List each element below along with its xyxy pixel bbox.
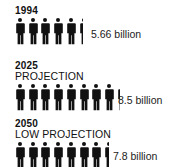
person-icon xyxy=(66,84,76,111)
row-2050: 2050 LOW PROJECTION xyxy=(15,118,111,167)
person-icon xyxy=(53,84,63,111)
person-icon xyxy=(91,142,101,167)
figure-row xyxy=(15,142,111,167)
person-icon xyxy=(79,84,89,111)
row-1994: 1994 xyxy=(15,5,38,46)
person-icon xyxy=(40,142,50,167)
figure-row xyxy=(15,84,84,112)
row-2025: 2025 PROJECTION xyxy=(15,60,84,112)
person-icon xyxy=(15,84,25,111)
person-icon xyxy=(79,142,89,167)
person-icon xyxy=(53,18,63,45)
person-icon xyxy=(91,84,101,111)
person-icon xyxy=(15,142,25,167)
person-icon xyxy=(28,142,38,167)
person-icon xyxy=(79,18,83,45)
person-icon xyxy=(66,142,76,167)
projection-label: PROJECTION xyxy=(15,71,84,82)
year-label: 1994 xyxy=(15,5,38,16)
person-icon xyxy=(40,18,50,45)
person-icon xyxy=(15,18,25,45)
figure-row xyxy=(15,18,38,46)
person-icon xyxy=(66,18,76,45)
projection-label: LOW PROJECTION xyxy=(15,129,111,140)
person-icon xyxy=(28,18,38,45)
person-icon xyxy=(104,142,109,167)
population-value: 8.5 billion xyxy=(118,94,162,106)
population-value: 7.8 billion xyxy=(113,150,157,162)
person-icon xyxy=(53,142,63,167)
person-icon xyxy=(104,84,114,111)
population-value: 5.66 billion xyxy=(91,28,141,40)
person-icon xyxy=(28,84,38,111)
person-icon xyxy=(40,84,50,111)
